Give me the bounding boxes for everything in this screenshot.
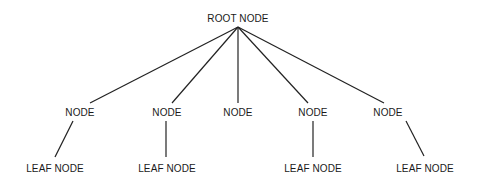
leaf-node-4: LEAF NODE xyxy=(284,163,342,174)
leaf-node-2: LEAF NODE xyxy=(138,163,196,174)
edge-n1-l1 xyxy=(55,121,73,157)
edge-root-n4 xyxy=(238,27,308,103)
edge-root-n1 xyxy=(90,27,238,103)
node-4: NODE xyxy=(298,107,327,118)
edge-root-n5 xyxy=(238,27,384,103)
node-3: NODE xyxy=(223,107,252,118)
node-5: NODE xyxy=(373,107,402,118)
edge-n5-l5 xyxy=(406,121,424,156)
node-1: NODE xyxy=(65,107,94,118)
root-node: ROOT NODE xyxy=(207,13,268,24)
leaf-node-1: LEAF NODE xyxy=(26,163,84,174)
leaf-node-5: LEAF NODE xyxy=(396,163,454,174)
tree-edges xyxy=(0,0,479,184)
edge-root-n2 xyxy=(172,27,238,103)
node-2: NODE xyxy=(152,107,181,118)
